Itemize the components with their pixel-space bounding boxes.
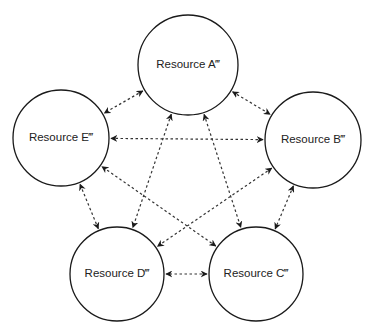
nodes-layer: Resource A‴ Resource B‴ Resource C‴ Reso… [13,15,361,321]
node-resource-e[interactable]: Resource E‴ [13,90,109,186]
node-resource-a[interactable]: Resource A‴ [138,15,238,115]
node-resource-c[interactable]: Resource C‴ [209,227,303,321]
edge-a-e [104,91,143,113]
node-resource-b[interactable]: Resource B‴ [265,92,361,188]
edge-b-e [111,138,263,139]
resource-network-diagram: Resource A‴ Resource B‴ Resource C‴ Reso… [0,0,373,332]
node-label: Resource B‴ [281,133,346,145]
node-label: Resource A‴ [156,58,220,70]
edge-d-e [80,184,98,229]
edge-a-b [233,92,271,115]
node-label: Resource E‴ [29,131,94,143]
node-label: Resource C‴ [224,267,290,279]
edge-b-c [275,186,293,229]
node-resource-d[interactable]: Resource D‴ [70,227,164,321]
node-label: Resource D‴ [85,267,151,279]
